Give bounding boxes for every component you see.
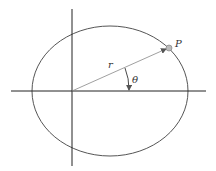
point-label: P xyxy=(174,38,182,49)
radius-label: r xyxy=(108,59,114,70)
polar-ellipse-diagram: P r θ xyxy=(0,0,216,171)
angle-label: θ xyxy=(132,74,138,85)
angle-arc xyxy=(125,68,129,90)
radius-line xyxy=(72,49,166,91)
point-p-marker xyxy=(166,45,172,51)
